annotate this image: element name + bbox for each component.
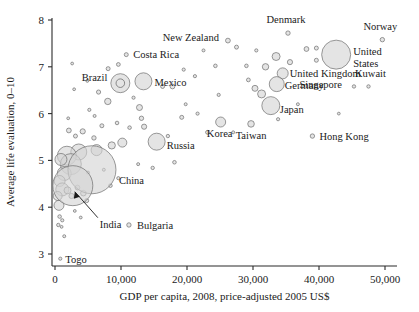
point-label-brazil: Brazil [82,72,108,83]
data-point [100,124,104,128]
data-point [118,138,127,147]
data-point-japan [262,97,280,115]
data-point-germany [269,77,284,92]
data-point-korea [216,117,226,127]
data-point [180,115,184,119]
data-point [136,105,142,111]
point-label-india: India [100,219,122,230]
data-point [235,45,239,49]
data-point-singapore [352,85,355,88]
data-point [132,96,135,99]
data-point-togo [59,257,62,260]
point-label-togo: Togo [65,254,86,265]
x-tick-label: 20,000 [172,273,203,285]
data-point-kuwait [367,85,370,88]
x-tick-label: 0 [52,273,58,285]
data-point [80,129,85,134]
data-point [252,85,258,91]
y-tick-label: 4 [39,201,45,213]
data-point [166,134,169,137]
data-point-costa-rica [124,53,128,57]
data-point [258,90,266,98]
x-tick-label: 40,000 [304,273,335,285]
point-label-korea: Korea [207,128,233,139]
data-point [202,49,205,52]
data-point [314,46,318,50]
data-point-new-zealand [226,38,231,43]
data-point [58,215,62,219]
data-point [92,136,96,140]
x-tick-label: 30,000 [238,273,269,285]
data-point-united-states [322,40,351,69]
data-point [193,75,196,78]
point-label-taiwan: Taiwan [236,130,268,141]
data-point [245,64,249,68]
point-label-hong-kong: Hong Kong [319,131,369,142]
data-point [116,63,120,67]
data-point [137,163,140,166]
data-point-hong-kong [310,134,314,138]
data-point [196,112,199,115]
point-label-denmark: Denmark [266,14,306,25]
y-tick-label: 7 [39,61,45,73]
x-axis-title: GDP per capita, 2008, price-adjusted 200… [120,290,330,302]
data-point-brazil [111,74,130,93]
data-point [246,78,250,82]
data-point [96,90,100,94]
data-point [73,88,76,91]
data-point [61,219,64,222]
data-point-india [53,166,93,206]
data-point [108,142,115,149]
data-point [88,108,91,111]
data-point [115,121,119,125]
data-point [128,126,132,130]
data-point [142,124,147,129]
data-point [217,93,220,96]
data-point [66,128,71,133]
data-point [60,225,63,228]
data-point [105,98,111,104]
data-point [63,235,66,238]
data-point [262,64,268,70]
data-point [337,112,340,115]
data-point [184,103,187,106]
data-point [67,117,70,120]
y-tick-label: 6 [39,108,45,120]
data-point-bulgaria [127,223,131,227]
point-label-kuwait: Kuwait [355,68,386,79]
data-point [57,223,60,226]
point-label-china: China [119,175,144,186]
point-label-russia: Russia [167,140,195,151]
data-point [73,134,77,138]
y-tick-label: 8 [39,14,45,26]
y-tick-label: 3 [39,248,45,260]
point-label-bulgaria: Bulgaria [137,220,173,231]
data-point [79,216,82,219]
data-point [151,166,154,169]
point-label-united-states: UnitedStates [353,46,382,69]
point-label-mexico: Mexico [154,77,186,88]
data-point [214,64,218,68]
point-label-new-zealand: New Zealand [163,32,220,43]
y-axis-title: Average life evaluation, 0–10 [4,77,16,207]
data-point [276,118,279,121]
data-point-mexico [135,73,152,90]
x-tick-label: 50,000 [370,273,401,285]
data-point [93,114,96,117]
data-point [173,160,177,164]
x-tick-label: 10,000 [106,273,137,285]
data-point-denmark [286,31,290,35]
data-point [139,116,143,120]
point-label-singapore: Singapore [299,79,342,90]
data-point [55,153,67,165]
plot-svg: 345678010,00020,00030,00040,00050,000 Co… [0,0,419,312]
data-point [255,49,258,52]
data-point-norway [380,37,384,41]
data-point [106,67,110,71]
data-point-taiwan [248,121,255,128]
data-point [71,62,74,65]
data-point-russia [148,133,165,150]
data-point [182,68,185,71]
point-label-united-kingdom: United Kingdom [290,68,361,79]
point-label-norway: Norway [363,21,398,32]
